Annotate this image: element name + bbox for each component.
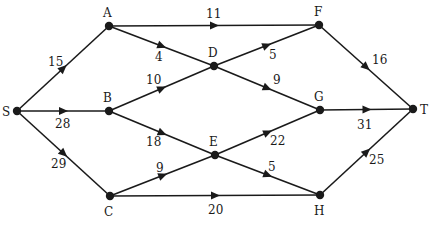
edge-weight-label: 4 (155, 50, 163, 64)
node-label: D (208, 46, 218, 60)
edge-weight-label: 15 (48, 55, 63, 69)
edge-weight-label: 5 (268, 160, 276, 174)
node-label: H (314, 204, 324, 218)
node-a (105, 22, 113, 30)
edge-weight-label: 16 (372, 53, 387, 67)
network-diagram: 152829114910518592220163125SABCDEFGHT (0, 0, 435, 228)
node-label: T (420, 103, 428, 117)
edge-weight-label: 11 (206, 7, 221, 21)
edge-weight-label: 20 (208, 203, 223, 217)
edge-weight-label: 5 (269, 48, 277, 62)
node-d (210, 62, 218, 70)
edge-weight-label: 28 (55, 117, 70, 131)
arrow-icon (211, 191, 220, 199)
node-h (316, 191, 324, 199)
node-label: B (103, 91, 112, 105)
node-c (106, 192, 114, 200)
node-label: E (209, 135, 218, 149)
node-label: F (314, 5, 322, 19)
edge-weight-label: 22 (270, 134, 285, 148)
edge-weight-label: 18 (146, 135, 161, 149)
node-f (315, 21, 323, 29)
edge-weight-label: 25 (369, 153, 384, 167)
node-label: A (102, 6, 112, 20)
arrow-icon (362, 105, 371, 113)
edge-weight-label: 31 (357, 118, 372, 132)
node-g (316, 106, 324, 114)
edge-weight-label: 9 (273, 73, 281, 87)
node-b (105, 107, 113, 115)
arrow-icon (262, 83, 273, 94)
node-label: G (314, 90, 324, 104)
edge-weight-label: 10 (146, 73, 161, 87)
node-s (13, 107, 21, 115)
node-label: C (104, 205, 113, 219)
node-t (409, 105, 417, 113)
edge-weight-label: 29 (51, 157, 66, 171)
edge-weight-label: 9 (156, 161, 164, 175)
node-e (211, 151, 219, 159)
node-label: S (2, 105, 10, 119)
arrow-icon (210, 21, 219, 29)
arrow-icon (59, 107, 68, 115)
